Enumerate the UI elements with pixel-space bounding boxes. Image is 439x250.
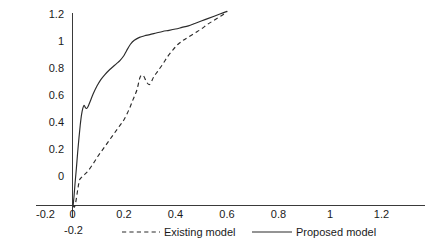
y-tick-label: 1	[58, 35, 64, 47]
y-tick-label: -0.2	[64, 224, 83, 236]
x-tick-label: 0.6	[219, 208, 234, 220]
series-line-existing-model	[73, 12, 227, 207]
axes-group	[36, 13, 425, 218]
series-line-proposed-model	[73, 11, 227, 205]
x-tick-label: 0.8	[271, 208, 286, 220]
line-chart: 1.2 1 0.8 0.6 0.4 0.2 0 -0.2 -0.2 0 0.2 …	[0, 0, 439, 250]
y-tick-label: 0.6	[49, 89, 64, 101]
x-tick-label: 1.2	[374, 208, 389, 220]
series-group	[73, 11, 227, 207]
chart-figure: 1.2 1 0.8 0.6 0.4 0.2 0 -0.2 -0.2 0 0.2 …	[0, 0, 439, 250]
legend-label-existing-model: Existing model	[164, 226, 236, 238]
x-tick-label: -0.2	[36, 208, 55, 220]
y-tick-label: 0.8	[49, 62, 64, 74]
x-tick-label: 1	[327, 208, 333, 220]
legend-label-proposed-model: Proposed model	[296, 226, 376, 238]
x-tick-labels: -0.2 0 0.2 0.4 0.6 0.8 1 1.2	[36, 208, 389, 220]
x-tick-label: 0.4	[168, 208, 183, 220]
x-tick-label: 0	[69, 208, 75, 220]
y-tick-label: 0.4	[49, 116, 64, 128]
y-tick-labels: 1.2 1 0.8 0.6 0.4 0.2 0 -0.2	[49, 8, 83, 236]
y-tick-label: 1.2	[49, 8, 64, 20]
chart-legend: Existing model Proposed model	[122, 226, 376, 238]
y-tick-label: 0	[58, 170, 64, 182]
x-tick-label: 0.2	[116, 208, 131, 220]
y-tick-label: 0.2	[49, 143, 64, 155]
